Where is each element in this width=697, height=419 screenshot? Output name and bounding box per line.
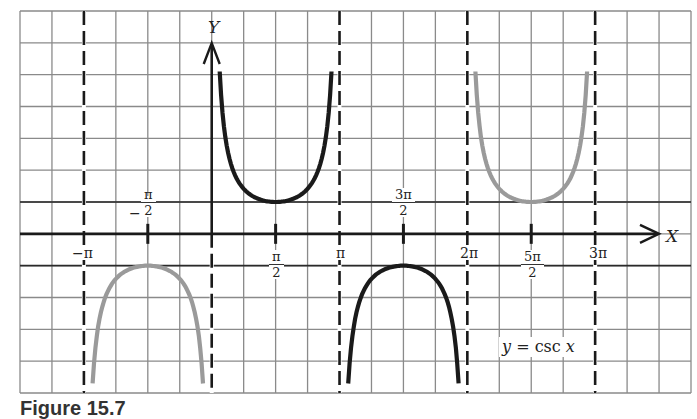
denominator: 2 — [141, 203, 156, 217]
legend-y: y — [502, 337, 511, 356]
tick-label-5pi-over-2: 5π 2 — [521, 250, 544, 279]
numerator: 5π — [521, 250, 544, 265]
numerator: π — [269, 250, 284, 265]
tick-label-3pi-over-2: 3π 2 — [392, 188, 415, 217]
tick-label-3pi: 3π — [587, 246, 609, 260]
x-axis-label: X — [666, 228, 678, 245]
minus-sign: − — [129, 206, 141, 220]
numerator: π — [141, 188, 156, 203]
numerator: 3π — [392, 188, 415, 203]
tick-label-minus-pi-over-2: − π 2 — [141, 196, 156, 217]
tick-label-pi-over-2: π 2 — [269, 250, 284, 279]
tick-label-minus-pi: −π — [70, 246, 95, 260]
legend-equation: y = csc x — [499, 337, 578, 357]
legend-eq: = csc — [511, 337, 566, 356]
denominator: 2 — [269, 265, 284, 279]
figure-caption: Figure 15.7 — [20, 398, 126, 418]
y-axis-label: Y — [208, 19, 219, 36]
tick-label-2pi: 2π — [458, 246, 480, 260]
denominator: 2 — [521, 265, 544, 279]
tick-label-pi: π — [334, 246, 347, 260]
denominator: 2 — [392, 203, 415, 217]
legend-x: x — [566, 337, 575, 356]
